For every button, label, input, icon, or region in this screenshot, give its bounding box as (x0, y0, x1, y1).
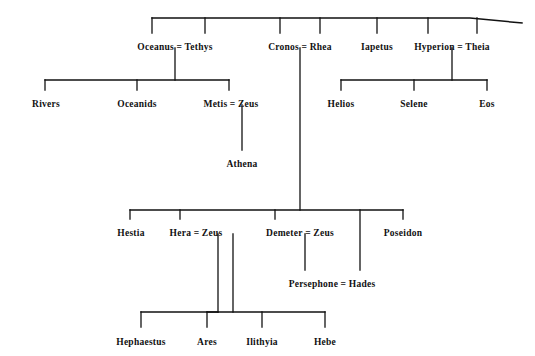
node-label-spouse: Zeus (313, 228, 334, 238)
node-selene: Selene (400, 99, 427, 110)
node-label-spouse: Rhea (310, 42, 332, 52)
node-label-primary: Oceanus (137, 42, 174, 52)
marriage-symbol: = (174, 42, 185, 52)
marriage-symbol: = (338, 279, 349, 289)
node-label-spouse: Theia (465, 42, 489, 52)
node-oceanus_tethys: Oceanus=Tethys (137, 42, 212, 53)
node-metis_zeus: Metis=Zeus (203, 99, 258, 110)
node-hephaestus: Hephaestus (116, 337, 165, 348)
node-helios: Helios (328, 99, 355, 110)
node-label-primary: Helios (328, 99, 355, 109)
node-label-primary: Poseidon (384, 228, 422, 238)
top-sibling-bar (152, 18, 522, 23)
node-label-primary: Ilithyia (246, 337, 278, 347)
node-label-primary: Demeter (266, 228, 303, 238)
node-label-primary: Hera (170, 228, 192, 238)
node-rivers: Rivers (32, 99, 60, 110)
node-demeter_zeus: Demeter=Zeus (266, 228, 334, 239)
node-label-spouse: Zeus (202, 228, 223, 238)
connector-lines (0, 0, 535, 356)
node-label-primary: Hebe (314, 337, 336, 347)
node-cronos_rhea: Cronos=Rhea (268, 42, 332, 53)
node-label-spouse: Tethys (185, 42, 213, 52)
node-label-primary: Ares (197, 337, 217, 347)
node-iapetus: Iapetus (361, 42, 393, 53)
marriage-symbol: = (455, 42, 466, 52)
marriage-symbol: = (191, 228, 202, 238)
node-hyperion_theia: Hyperion=Theia (414, 42, 490, 53)
node-ilithyia: Ilithyia (246, 337, 278, 348)
node-label-primary: Rivers (32, 99, 60, 109)
node-athena: Athena (226, 159, 257, 170)
node-label-primary: Selene (400, 99, 427, 109)
node-label-spouse: Zeus (238, 99, 259, 109)
node-label-primary: Hyperion (414, 42, 455, 52)
node-persephone_hades: Persephone=Hades (289, 279, 376, 290)
node-hestia: Hestia (117, 228, 144, 239)
node-oceanids: Oceanids (117, 99, 156, 110)
node-label-primary: Oceanids (117, 99, 156, 109)
node-hera_zeus: Hera=Zeus (170, 228, 223, 239)
node-label-primary: Hephaestus (116, 337, 165, 347)
node-ares: Ares (197, 337, 217, 348)
node-label-primary: Metis (203, 99, 227, 109)
node-hebe: Hebe (314, 337, 336, 348)
node-eos: Eos (479, 99, 495, 110)
marriage-symbol: = (303, 228, 314, 238)
node-label-primary: Iapetus (361, 42, 393, 52)
family-tree-diagram: Oceanus=TethysCronos=RheaIapetusHyperion… (0, 0, 535, 356)
node-label-spouse: Hades (349, 279, 376, 289)
marriage-symbol: = (299, 42, 310, 52)
node-label-primary: Athena (226, 159, 257, 169)
node-label-primary: Hestia (117, 228, 144, 238)
marriage-symbol: = (227, 99, 238, 109)
node-label-primary: Cronos (268, 42, 299, 52)
node-poseidon: Poseidon (384, 228, 422, 239)
node-label-primary: Eos (479, 99, 495, 109)
node-label-primary: Persephone (289, 279, 338, 289)
